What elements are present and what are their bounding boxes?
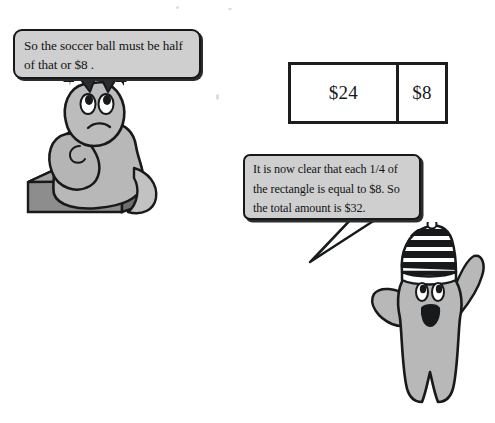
sitting-character [22,60,182,225]
scan-speckle [216,94,219,100]
character-left-pupil [420,285,426,293]
cap-pompom [428,222,437,229]
bar-cell-large: $24 [291,65,399,121]
left-speech-bubble-text: So the soccer ball must be half of that … [24,36,192,74]
standing-character [368,222,492,407]
right-speech-line-1: It is now clear that each 1/4 of [253,160,414,180]
character-head [65,82,125,146]
right-speech-bubble-text: It is now clear that each 1/4 of the rec… [253,160,414,219]
left-speech-bubble: So the soccer ball must be half of that … [13,29,201,79]
scan-speckle [176,6,179,9]
bar-cell-small-label: $8 [412,82,431,104]
right-speech-line-3: the total amount is $32. [253,199,414,219]
right-speech-line-2: the rectangle is equal to $8. So [253,180,414,200]
bar-model-diagram: $24 $8 [288,62,448,124]
scan-speckle [228,8,232,10]
right-bubble-tail-shade [309,219,352,262]
bar-cell-large-label: $24 [329,82,358,104]
bar-cell-small: $8 [399,65,445,121]
character-mouth [422,305,439,326]
right-speech-bubble: It is now clear that each 1/4 of the rec… [243,154,421,220]
illustration-scene: $24 $8 So the soccer ball must be half o… [0,0,495,423]
character-right-pupil [103,95,111,105]
character-left-pupil [85,95,93,105]
character-right-pupil [436,285,442,293]
